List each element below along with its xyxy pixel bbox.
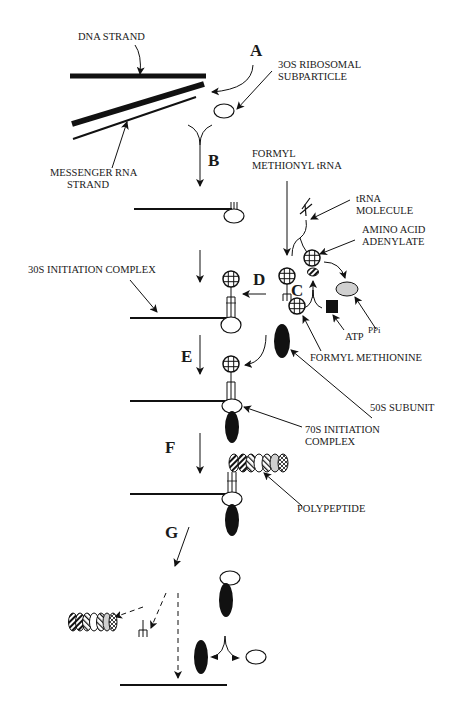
70s-initiation-label-line2: COMPLEX [305,436,356,447]
fmet-trna-label-line1: FORMYL [252,148,296,159]
ppi-label: PPi [368,325,381,335]
30s-initiation-complex-label: 30S INITIATION COMPLEX [28,264,156,275]
atp-label: ATP [345,331,364,342]
step-a-arrow [212,65,253,92]
step-label-b: B [208,151,219,170]
ppi-ellipse [336,282,358,296]
dna-label-arrow [135,45,140,74]
trna-label-line1: tRNA [356,193,382,204]
step-label-f: F [165,438,175,457]
released-70s-ribosome [219,571,240,617]
aa-adenylate-label-line2: ADENYLATE [362,236,424,247]
step-label-c: C [291,281,303,300]
mrna-label-line1: MESSENGER RNA [50,167,138,178]
atp-square [326,300,338,313]
mrna-label-arrow [112,122,127,168]
ppi-release-arrow [324,262,345,278]
step-label-e: E [181,347,192,366]
30s-ribosomal-label-line1: 3OS RIBOSOMAL [278,59,361,70]
mrna-complex-strands [72,84,204,139]
elongation-complex [130,472,242,536]
translation-diagram: DNA STRAND MESSENGER RNA STRAND A 3OS RI… [0,0,463,712]
released-50s-subunit [194,640,208,674]
formyl-methionine-label: FORMYL METHIONINE [310,352,422,363]
adenylate-icon [308,268,319,276]
dissociation-arrowhead-left [210,654,218,660]
fmet-trna-fork-icon [283,284,291,301]
trna-label-arrow [311,200,350,219]
50s-subunit-label: 50S SUBUNIT [370,402,435,413]
30s-initiation-complex [130,271,241,333]
polypeptide-label-arrow [264,473,302,506]
dissociation-arrowhead-right [232,655,240,661]
step-label-a: A [250,41,263,60]
50s-join-arrow [245,335,266,365]
50s-subunit-free [274,324,290,358]
polypeptide-chain [229,454,288,472]
amino-acid-ball-icon [304,250,320,266]
trna-label-line2: MOLECULE [356,205,413,216]
aa-adenylate-arrow [320,240,355,254]
trna-molecule-icon [300,198,312,216]
released-30s-subunit [246,650,266,664]
70s-initiation-complex [130,356,242,443]
polypeptide-label: POLYPEPTIDE [297,503,365,514]
trna-path-curve [292,220,308,256]
released-trna-icon [139,620,147,637]
step-label-g: G [165,523,178,542]
released-polypeptide [69,613,118,631]
mrna-with-30s [134,202,244,223]
30s-label-arrow [237,71,272,109]
dna-strand-label: DNA STRAND [78,31,145,42]
formyl-methionine-arrow [303,316,321,351]
aa-adenylate-label-line1: AMINO ACID [362,224,426,235]
step-label-d: D [253,270,265,289]
70s-initiation-label-line1: 70S INITIATION [305,424,380,435]
30s-ribosomal-label-line2: SUBPARTICLE [278,71,347,82]
30s-initiation-arrow [130,280,157,312]
30s-subparticle-free [214,104,234,118]
70s-label-arrow [244,407,302,427]
dissociation-fork [212,636,238,658]
mrna-label-line2: STRAND [67,179,109,190]
formyl-methionine-ball-icon [289,298,305,314]
fmet-trna-label-line2: METHIONYL tRNA [252,160,342,171]
atp-label-arrow [333,315,344,330]
